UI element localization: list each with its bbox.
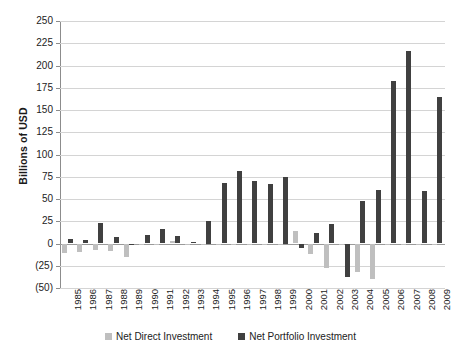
- y-tick-mark: [56, 21, 60, 22]
- bar-portfolio-1996: [237, 171, 242, 243]
- x-tick-label-1991: 1991: [164, 289, 175, 327]
- legend-label: Net Direct Investment: [116, 331, 212, 342]
- x-axis-tick-labels: 1985198619871988198919901991199219931994…: [60, 291, 445, 329]
- bar-portfolio-1999: [283, 177, 288, 244]
- bar-group: [292, 21, 307, 288]
- y-tick-mark: [56, 66, 60, 67]
- bar-direct-1996: [231, 244, 236, 245]
- x-tick-label-1987: 1987: [103, 289, 114, 327]
- y-tick-mark: [56, 177, 60, 178]
- bar-direct-2000: [293, 231, 298, 243]
- legend-item[interactable]: Net Portfolio Investment: [238, 331, 356, 342]
- bar-direct-2006: [385, 244, 390, 245]
- y-tick-label: (50): [35, 283, 53, 293]
- bar-group: [123, 21, 138, 288]
- bar-portfolio-1987: [98, 223, 103, 243]
- bar-group: [153, 21, 168, 288]
- y-tick-label: 125: [36, 127, 53, 137]
- y-tick-mark: [56, 199, 60, 200]
- x-tick-label-1998: 1998: [272, 289, 283, 327]
- bar-chart: Billions of USD 250225200175150125100755…: [0, 0, 461, 352]
- x-tick-label-2003: 2003: [349, 289, 360, 327]
- bar-portfolio-2008: [422, 191, 427, 244]
- bar-direct-1993: [185, 244, 190, 245]
- bar-group: [354, 21, 369, 288]
- bar-portfolio-1986: [83, 240, 88, 244]
- bar-direct-1986: [77, 244, 82, 252]
- bar-group: [200, 21, 215, 288]
- y-tick-mark: [56, 88, 60, 89]
- x-tick-label-1997: 1997: [257, 289, 268, 327]
- y-tick-label: 150: [36, 105, 53, 115]
- bar-direct-1989: [124, 244, 129, 257]
- legend-swatch-icon: [238, 333, 245, 340]
- bar-portfolio-1993: [191, 242, 196, 244]
- bar-direct-1995: [216, 244, 221, 245]
- bar-portfolio-2009: [437, 97, 442, 244]
- bar-group: [323, 21, 338, 288]
- x-tick-label-1989: 1989: [133, 289, 144, 327]
- x-tick-label-2002: 2002: [334, 289, 345, 327]
- bar-portfolio-1994: [206, 221, 211, 243]
- bar-direct-1988: [108, 244, 113, 251]
- x-tick-label-1988: 1988: [118, 289, 129, 327]
- bar-direct-1990: [139, 244, 144, 245]
- bar-direct-1997: [247, 244, 252, 245]
- x-tick-label-2000: 2000: [303, 289, 314, 327]
- bar-portfolio-2002: [329, 224, 334, 244]
- y-tick-label: 75: [42, 172, 53, 182]
- bar-group: [107, 21, 122, 288]
- bar-portfolio-1997: [252, 181, 257, 243]
- bar-direct-1994: [201, 244, 206, 245]
- y-axis-tick-labels: 2502252001751501251007550250(25)(50): [0, 21, 55, 288]
- bar-portfolio-2003: [345, 244, 350, 278]
- bar-group: [246, 21, 261, 288]
- bar-direct-2004: [355, 244, 360, 272]
- bar-portfolio-1998: [268, 184, 273, 244]
- y-tick-label: 250: [36, 16, 53, 26]
- bar-group: [215, 21, 230, 288]
- bar-portfolio-1991: [160, 229, 165, 243]
- y-tick-label: 175: [36, 83, 53, 93]
- plot-area: [60, 21, 445, 288]
- bar-group: [76, 21, 91, 288]
- bar-direct-2009: [432, 244, 437, 245]
- bar-group: [277, 21, 292, 288]
- bar-direct-2002: [324, 244, 329, 268]
- bar-direct-2008: [416, 244, 421, 245]
- bar-direct-2003: [339, 244, 344, 245]
- bar-group: [415, 21, 430, 288]
- x-tick-label-1990: 1990: [149, 289, 160, 327]
- x-tick-label-2009: 2009: [441, 289, 452, 327]
- bar-group: [169, 21, 184, 288]
- y-tick-mark: [56, 155, 60, 156]
- bar-portfolio-1985: [68, 239, 73, 243]
- x-tick-label-2007: 2007: [411, 289, 422, 327]
- y-tick-mark: [56, 43, 60, 44]
- bar-direct-1987: [93, 244, 98, 250]
- x-tick-label-1996: 1996: [241, 289, 252, 327]
- bar-portfolio-1990: [145, 235, 150, 244]
- legend-item[interactable]: Net Direct Investment: [105, 331, 212, 342]
- bar-portfolio-2000: [299, 244, 304, 248]
- chart-legend: Net Direct InvestmentNet Portfolio Inves…: [0, 331, 461, 342]
- bar-portfolio-1992: [175, 236, 180, 243]
- x-tick-label-2006: 2006: [395, 289, 406, 327]
- y-tick-label: 0: [47, 239, 53, 249]
- y-tick-mark: [56, 132, 60, 133]
- bar-direct-2001: [308, 244, 313, 255]
- legend-swatch-icon: [105, 333, 112, 340]
- bar-series-container: [61, 21, 445, 288]
- bar-group: [261, 21, 276, 288]
- y-tick-mark: [56, 288, 60, 289]
- bar-portfolio-1995: [222, 183, 227, 244]
- x-tick-label-1994: 1994: [210, 289, 221, 327]
- y-tick-label: 225: [36, 38, 53, 48]
- y-tick-label: 25: [42, 216, 53, 226]
- bar-direct-1998: [262, 244, 267, 245]
- bar-portfolio-1989: [129, 244, 134, 245]
- bar-group: [307, 21, 322, 288]
- bar-group: [138, 21, 153, 288]
- bar-portfolio-2001: [314, 233, 319, 244]
- y-tick-label: 50: [42, 194, 53, 204]
